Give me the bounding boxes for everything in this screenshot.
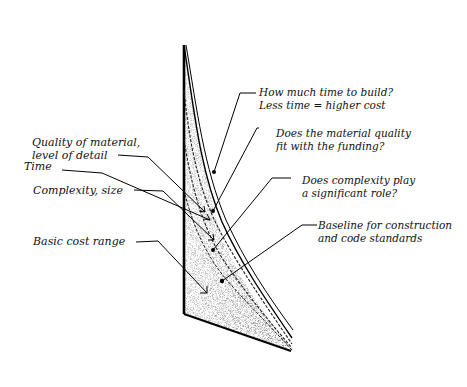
label-line: Does complexity play xyxy=(302,174,415,187)
label-material-quality-funding: Does the material quality fit with the f… xyxy=(276,127,411,153)
label-quality-of-material: Quality of material, level of detail xyxy=(32,136,140,162)
label-line: Baseline for construction xyxy=(318,219,452,232)
label-line: Less time = higher cost xyxy=(259,99,393,112)
label-baseline-standards: Baseline for construction and code stand… xyxy=(318,219,452,245)
label-line: Complexity, size xyxy=(33,184,123,197)
label-line: fit with the funding? xyxy=(276,140,411,153)
label-line: and code standards xyxy=(318,232,452,245)
label-complexity-role: Does complexity play a significant role? xyxy=(302,174,415,200)
label-line: Basic cost range xyxy=(33,235,125,248)
label-complexity-size: Complexity, size xyxy=(33,184,123,197)
label-line: Quality of material, xyxy=(32,136,140,149)
label-line: How much time to build? xyxy=(259,86,393,99)
label-line: level of detail xyxy=(32,149,140,162)
label-line: a significant role? xyxy=(302,187,415,200)
label-line: Does the material quality xyxy=(276,127,411,140)
label-basic-cost-range: Basic cost range xyxy=(33,235,125,248)
label-time-to-build: How much time to build? Less time = high… xyxy=(259,86,393,112)
